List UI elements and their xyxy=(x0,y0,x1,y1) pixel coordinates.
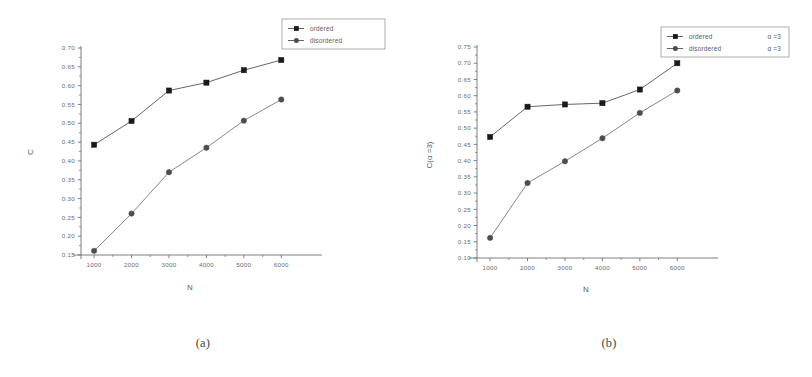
data-point-circle-marker xyxy=(637,110,642,115)
data-point-square-marker xyxy=(600,101,605,106)
data-point-circle-marker xyxy=(562,159,567,164)
data-point-square-marker xyxy=(637,87,642,92)
y-tick-label: 0.70 xyxy=(458,59,472,66)
legend-circle-marker xyxy=(294,38,299,43)
y-tick-label: 0.25 xyxy=(458,206,472,213)
y-tick-label: 0.45 xyxy=(62,138,76,145)
chart-b: 0.100.150.200.250.300.350.400.450.500.55… xyxy=(406,0,812,330)
figure-panel-b: 0.100.150.200.250.300.350.400.450.500.55… xyxy=(406,0,812,377)
legend-suffix: α =3 xyxy=(767,45,781,52)
legend-label: disordered xyxy=(689,45,721,52)
data-point-square-marker xyxy=(525,104,530,109)
y-tick-label: 0.15 xyxy=(62,251,76,258)
data-point-circle-marker xyxy=(487,235,492,240)
x-tick-label: 6000 xyxy=(274,261,289,268)
panel-b-caption: (b) xyxy=(406,336,812,351)
data-point-square-marker xyxy=(488,134,493,139)
legend-square-marker xyxy=(294,26,299,31)
figure-panel-a: 0.150.200.250.300.350.400.450.500.550.60… xyxy=(0,0,406,377)
data-point-square-marker xyxy=(204,80,209,85)
legend-box xyxy=(282,19,385,49)
data-point-circle-marker xyxy=(525,180,530,185)
x-tick-label: 2000 xyxy=(124,261,139,268)
y-tick-label: 0.60 xyxy=(62,82,76,89)
y-tick-label: 0.50 xyxy=(458,124,472,131)
data-point-circle-marker xyxy=(600,136,605,141)
x-tick-label: 6000 xyxy=(670,264,685,271)
x-tick-label: 4000 xyxy=(595,264,610,271)
y-tick-label: 0.30 xyxy=(62,195,76,202)
x-axis-title: N xyxy=(583,285,589,294)
data-point-circle-marker xyxy=(204,145,209,150)
y-tick-label: 0.40 xyxy=(458,157,472,164)
y-tick-label: 0.20 xyxy=(458,222,472,229)
y-tick-label: 0.60 xyxy=(458,92,472,99)
x-tick-label: 5000 xyxy=(236,261,251,268)
x-tick-label: 4000 xyxy=(199,261,214,268)
legend-circle-marker xyxy=(673,46,678,51)
chart-a: 0.150.200.250.300.350.400.450.500.550.60… xyxy=(0,0,406,330)
y-tick-label: 0.70 xyxy=(62,44,76,51)
y-tick-label: 0.10 xyxy=(458,254,472,261)
x-axis-title: N xyxy=(187,283,193,292)
legend-label: disordered xyxy=(310,37,342,44)
data-point-square-marker xyxy=(675,61,680,66)
data-point-square-marker xyxy=(129,118,134,123)
data-point-square-marker xyxy=(562,102,567,107)
y-axis-title: C xyxy=(26,149,35,155)
panel-a-caption: (a) xyxy=(0,336,406,351)
y-tick-label: 0.30 xyxy=(458,189,472,196)
data-point-circle-marker xyxy=(279,97,284,102)
legend-suffix: α =3 xyxy=(767,33,781,40)
y-axis-title: C(α =3) xyxy=(425,141,434,168)
y-tick-label: 0.20 xyxy=(62,232,76,239)
series-line xyxy=(490,91,677,238)
data-point-circle-marker xyxy=(91,248,96,253)
y-tick-label: 0.35 xyxy=(458,173,472,180)
y-tick-label: 0.35 xyxy=(62,176,76,183)
y-tick-label: 0.65 xyxy=(458,76,472,83)
series-line xyxy=(94,60,281,145)
y-tick-label: 0.50 xyxy=(62,119,76,126)
y-tick-label: 0.75 xyxy=(458,43,472,50)
x-tick-label: 1000 xyxy=(483,264,498,271)
data-point-circle-marker xyxy=(166,170,171,175)
legend-box xyxy=(661,27,789,57)
data-point-circle-marker xyxy=(129,211,134,216)
x-tick-label: 2000 xyxy=(520,264,535,271)
legend-label: ordered xyxy=(689,33,713,40)
y-tick-label: 0.55 xyxy=(62,101,76,108)
y-tick-label: 0.40 xyxy=(62,157,76,164)
data-point-square-marker xyxy=(279,57,284,62)
data-point-circle-marker xyxy=(675,88,680,93)
data-point-circle-marker xyxy=(241,118,246,123)
data-point-square-marker xyxy=(92,142,97,147)
x-tick-label: 3000 xyxy=(557,264,572,271)
data-point-square-marker xyxy=(241,68,246,73)
figure-container: 0.150.200.250.300.350.400.450.500.550.60… xyxy=(0,0,812,377)
x-tick-label: 1000 xyxy=(87,261,102,268)
y-tick-label: 0.65 xyxy=(62,63,76,70)
y-tick-label: 0.55 xyxy=(458,108,472,115)
y-tick-label: 0.45 xyxy=(458,141,472,148)
series-line xyxy=(490,63,677,137)
y-tick-label: 0.25 xyxy=(62,214,76,221)
y-tick-label: 0.15 xyxy=(458,238,472,245)
series-line xyxy=(94,100,281,251)
legend-label: ordered xyxy=(310,25,334,32)
legend-square-marker xyxy=(673,34,678,39)
data-point-square-marker xyxy=(166,88,171,93)
x-tick-label: 5000 xyxy=(632,264,647,271)
x-tick-label: 3000 xyxy=(161,261,176,268)
